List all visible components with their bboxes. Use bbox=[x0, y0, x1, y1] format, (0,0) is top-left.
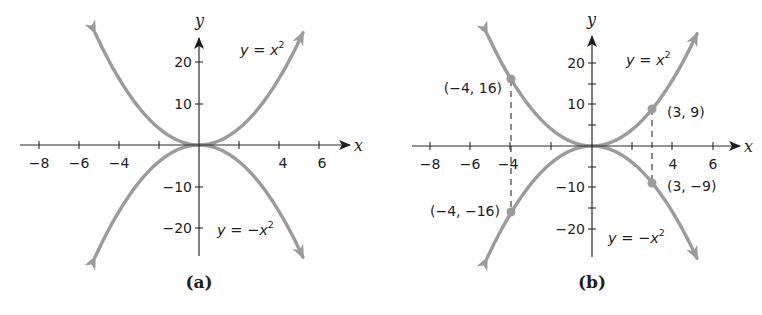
point-3-9 bbox=[648, 105, 657, 114]
equation-label-lower: y = −x2 bbox=[607, 227, 665, 246]
x-tick-label: 6 bbox=[318, 155, 327, 171]
x-tick-label: −6 bbox=[69, 155, 90, 171]
point-neg4-16 bbox=[507, 75, 516, 84]
x-tick-label: −8 bbox=[420, 156, 441, 172]
y-tick-label: 10 bbox=[567, 96, 585, 112]
y-axis-label: y bbox=[586, 10, 597, 29]
x-tick-label: −8 bbox=[29, 155, 50, 171]
x-tick-label: 6 bbox=[709, 156, 718, 172]
point-label: (−4, 16) bbox=[444, 80, 502, 96]
y-tick-label: 20 bbox=[567, 55, 585, 71]
point-label: (3, 9) bbox=[667, 104, 705, 120]
figure: −8 −6 −4 4 6 20 10 −10 −20 x y y = x2 y … bbox=[0, 0, 762, 315]
y-axis-label: y bbox=[194, 11, 205, 30]
y-tick-label: 10 bbox=[174, 96, 192, 112]
panel-a: −8 −6 −4 4 6 20 10 −10 −20 x y y = x2 y … bbox=[20, 11, 363, 292]
y-tick-label: −10 bbox=[162, 179, 192, 195]
y-tick-label: −20 bbox=[555, 221, 585, 237]
x-tick-label: −6 bbox=[460, 156, 481, 172]
x-tick-label: −4 bbox=[109, 155, 130, 171]
x-tick-label: 4 bbox=[279, 155, 288, 171]
equation-label-lower: y = −x2 bbox=[216, 219, 274, 238]
point-label: (−4, −16) bbox=[430, 203, 500, 219]
x-tick-label: −4 bbox=[498, 156, 519, 172]
y-tick-label: −20 bbox=[162, 220, 192, 236]
point-label: (3, −9) bbox=[667, 178, 716, 194]
panel-b: −8 −6 −4 4 6 20 10 −10 −20 x y (−4, 16) … bbox=[412, 10, 753, 292]
caption-a: (a) bbox=[185, 272, 212, 292]
y-tick-label: −10 bbox=[555, 179, 585, 195]
point-3-neg9 bbox=[648, 179, 657, 188]
equation-label-upper: y = x2 bbox=[239, 39, 285, 58]
x-axis-label: x bbox=[744, 137, 753, 156]
x-tick-label: 4 bbox=[669, 156, 678, 172]
caption-b: (b) bbox=[578, 272, 606, 292]
y-tick-label: 20 bbox=[174, 54, 192, 70]
point-neg4-neg16 bbox=[507, 208, 516, 217]
equation-label-upper: y = x2 bbox=[625, 49, 671, 68]
x-axis-label: x bbox=[354, 136, 363, 155]
